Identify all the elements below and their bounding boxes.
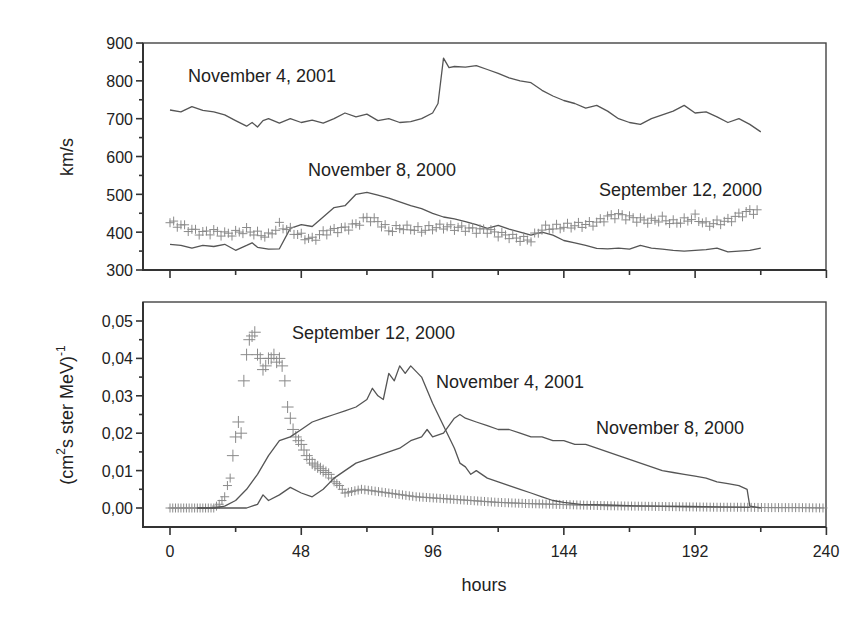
bottom-ytick-0.00: 0,00 bbox=[102, 500, 133, 517]
bottom-annotation-nov8-2000: November 8, 2000 bbox=[596, 418, 744, 438]
top-ytick-300: 300 bbox=[106, 262, 133, 279]
bottom-ytick-0.04: 0,04 bbox=[102, 350, 133, 367]
figure: 900 800 700 600 500 400 300 km/s Novembe… bbox=[0, 0, 867, 623]
top-ytick-800: 800 bbox=[106, 73, 133, 90]
bottom-x-ticks bbox=[170, 527, 826, 535]
top-ytick-700: 700 bbox=[106, 111, 133, 128]
bottom-y-ticks bbox=[136, 321, 143, 508]
top-ytick-600: 600 bbox=[106, 149, 133, 166]
xtick-192: 192 bbox=[682, 543, 709, 560]
xtick-48: 48 bbox=[292, 543, 310, 560]
xtick-0: 0 bbox=[166, 543, 175, 560]
bottom-panel: 0,05 0,04 0,03 0,02 0,01 0,00 0 48 96 14… bbox=[54, 302, 839, 595]
top-annotation-nov8-2000: November 8, 2000 bbox=[308, 160, 456, 180]
top-panel: 900 800 700 600 500 400 300 km/s Novembe… bbox=[57, 35, 826, 279]
top-annotation-nov4-2001: November 4, 2001 bbox=[188, 66, 336, 86]
ylabel-part-2: s ster MeV) bbox=[57, 356, 77, 448]
xtick-144: 144 bbox=[551, 543, 578, 560]
top-y-axis-label: km/s bbox=[57, 138, 77, 176]
xtick-96: 96 bbox=[424, 543, 442, 560]
bottom-annotation-nov4-2001: November 4, 2001 bbox=[436, 372, 584, 392]
top-series bbox=[166, 58, 762, 252]
bottom-y-axis-label: (cm2s ster MeV)-1 bbox=[54, 345, 77, 485]
bottom-ytick-0.02: 0,02 bbox=[102, 425, 133, 442]
ylabel-part-1: (cm bbox=[57, 455, 77, 485]
top-series-november-8-2000-line bbox=[170, 192, 761, 251]
bottom-ytick-0.05: 0,05 bbox=[102, 313, 133, 330]
top-series-september-12-2000-markers bbox=[166, 205, 762, 246]
ylabel-superscript-minus1: -1 bbox=[54, 345, 68, 356]
top-annotation-sep12-2000: September 12, 2000 bbox=[599, 180, 762, 200]
bottom-ytick-0.03: 0,03 bbox=[102, 388, 133, 405]
top-x-ticks bbox=[170, 270, 826, 278]
bottom-ytick-0.01: 0,01 bbox=[102, 463, 133, 480]
top-y-ticks bbox=[136, 43, 143, 270]
xtick-240: 240 bbox=[813, 543, 840, 560]
bottom-panel-frame bbox=[143, 302, 826, 527]
x-axis-label: hours bbox=[461, 575, 506, 595]
bottom-annotation-sep12-2000: September 12, 2000 bbox=[292, 323, 455, 343]
top-ytick-400: 400 bbox=[106, 225, 133, 242]
top-ytick-500: 500 bbox=[106, 187, 133, 204]
top-ytick-900: 900 bbox=[106, 35, 133, 52]
